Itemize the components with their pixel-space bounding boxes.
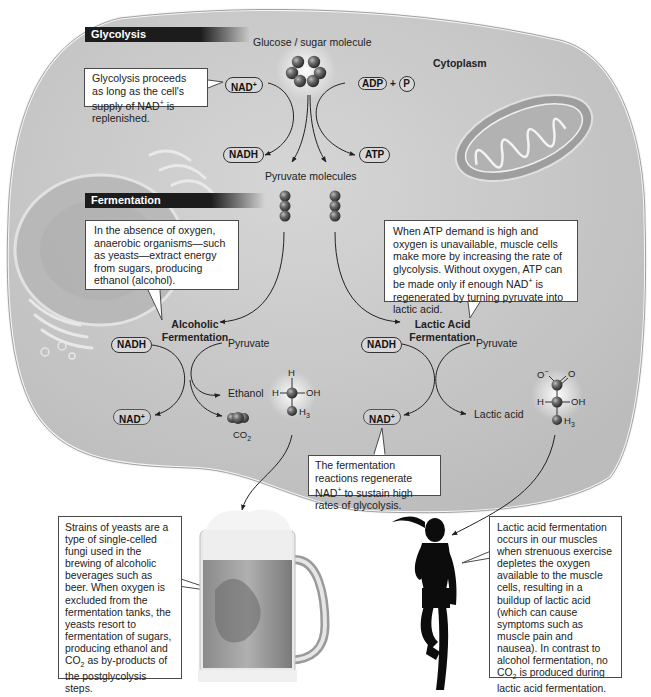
co2-label: CO2 <box>233 429 251 442</box>
glycolysis-callout: Glycolysis proceeds as long as the cell'… <box>84 68 208 107</box>
glucose-label: Glucose / sugar molecule <box>253 36 371 48</box>
runner-silhouette-image <box>392 517 457 690</box>
ethanol-h3: H3 <box>299 406 310 419</box>
pyruvate-label-lactic: Pyruvate <box>476 337 517 349</box>
beer-mug-image <box>198 509 325 682</box>
co2-molecule-icon <box>227 412 249 424</box>
nad-plus-tag-top: NAD+ <box>225 77 263 93</box>
fermentation-section-header: Fermentation <box>85 193 265 208</box>
alcoholic-fermentation-callout: In the absence of oxygen, anaerobic orga… <box>85 220 239 290</box>
adp-plus-p: ADP + P <box>358 76 415 92</box>
pyruvate-molecule-icon-left <box>280 191 291 222</box>
lactate-oh: OH <box>571 396 585 407</box>
regenerate-nad-callout: The fermentation reactions regenerate NA… <box>308 455 441 496</box>
yeast-beer-callout: Strains of yeasts are a type of single-c… <box>58 516 182 679</box>
atp-tag: ATP <box>359 147 390 163</box>
lactic-acid-label: Lactic acid <box>474 408 524 420</box>
nad-plus-tag-lactic: NAD+ <box>363 409 401 425</box>
nadh-tag-alcoholic: NADH <box>111 337 152 353</box>
pyruvate-molecules-label: Pyruvate molecules <box>265 170 357 182</box>
glycolysis-section-header: Glycolysis <box>85 27 250 42</box>
muscle-lactic-callout: Lactic acid fermentation occurs in our m… <box>489 516 622 678</box>
adp-tag: ADP <box>358 77 387 90</box>
alcoholic-fermentation-label: Alcoholic Fermentation <box>160 318 230 343</box>
pyruvate-label-alcoholic: Pyruvate <box>228 337 269 349</box>
ethanol-h-left: H <box>272 387 279 398</box>
ethanol-label: Ethanol <box>228 387 264 399</box>
plus-sign: + <box>390 78 396 89</box>
lactate-h3: H3 <box>564 415 575 428</box>
lactic-acid-fermentation-label: Lactic Acid Fermentation <box>405 318 480 343</box>
nad-plus-tag-alcoholic: NAD+ <box>113 409 151 425</box>
lactate-o-minus: O− <box>537 368 548 380</box>
cytoplasm-label: Cytoplasm <box>433 57 487 69</box>
nadh-tag-top: NADH <box>223 147 264 163</box>
phosphate-tag: P <box>399 76 415 92</box>
lactate-h-left: H <box>537 396 544 407</box>
ethanol-h-top: H <box>288 367 295 378</box>
lactic-fermentation-callout: When ATP demand is high and oxygen is un… <box>384 220 578 302</box>
pyruvate-molecule-icon-right <box>330 191 341 222</box>
lactate-o: O <box>568 368 575 379</box>
nadh-tag-lactic: NADH <box>361 337 402 353</box>
ethanol-oh: OH <box>306 387 320 398</box>
